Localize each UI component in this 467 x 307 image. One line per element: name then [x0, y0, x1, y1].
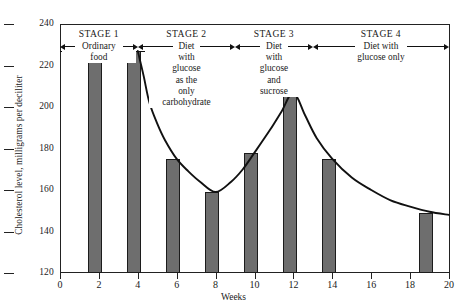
stage-body-3: Dietwithglucoseandsucrose: [237, 41, 311, 97]
stage-2-line-6: carbohydrate: [149, 97, 223, 108]
stage-2-arrowhead-left-icon: [138, 44, 143, 50]
stage-4-arrow-left-line: [318, 46, 355, 47]
stage-3-arrowhead-left-icon: [235, 44, 240, 50]
stage-2-line-5: only: [149, 86, 223, 97]
stage-body-2: Dietwithglucoseas theonlycarbohydrate: [149, 41, 223, 108]
cholesterol-stage-chart: Cholesterol level, milligrams per decili…: [0, 0, 467, 307]
stage-3-line-3: glucose: [237, 63, 311, 74]
stage-1-arrow-left-line: [65, 46, 75, 47]
stage-1-arrow-right-line: [123, 46, 133, 47]
stage-3-line-5: sucrose: [237, 86, 311, 97]
stage-3-arrow-right-line: [288, 46, 308, 47]
stage-2-arrow-left-line: [143, 46, 173, 47]
stage-2-line-3: glucose: [149, 63, 223, 74]
stage-1-arrowhead-left-icon: [60, 44, 65, 50]
stage-4-arrowhead-right-icon: [444, 44, 449, 50]
stage-2-line-2: with: [149, 52, 223, 63]
stage-3-line-4: and: [237, 75, 311, 86]
stage-4-arrow-right-line: [407, 46, 444, 47]
stage-2-arrow-right-line: [200, 46, 230, 47]
stage-2-line-4: as the: [149, 75, 223, 86]
stage-1-line-2: food: [62, 52, 136, 63]
stage-title-4: STAGE 4: [321, 28, 441, 39]
stage-3-line-2: with: [237, 52, 311, 63]
stage-3-arrow-left-line: [240, 46, 260, 47]
stage-body-1: Ordinaryfood: [62, 41, 136, 63]
stage-body-4: Diet withglucose only: [344, 41, 418, 63]
stage-title-3: STAGE 3: [214, 28, 334, 39]
stage-4-line-2: glucose only: [344, 52, 418, 63]
stage-4-arrowhead-left-icon: [313, 44, 318, 50]
